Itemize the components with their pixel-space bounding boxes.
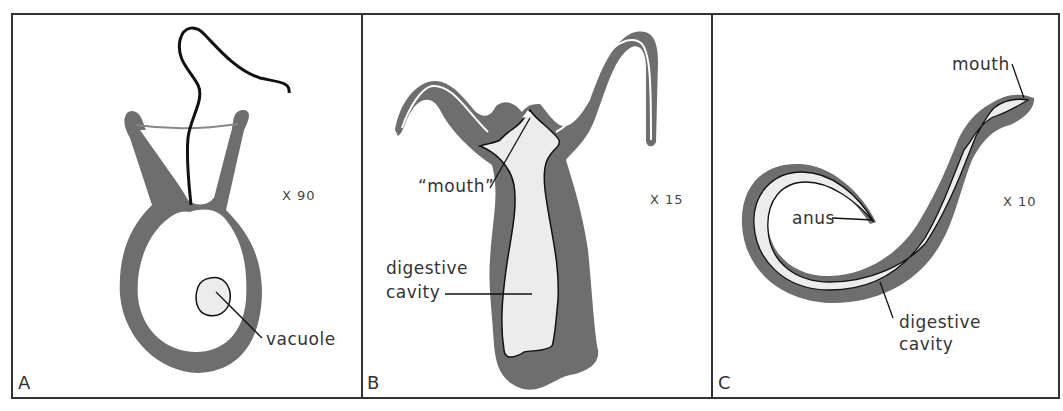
magnification-a: X 90 [282,188,316,203]
mouth-label-c: mouth [952,54,1010,74]
panel-letter-a: A [18,372,31,393]
magnification-b: X 15 [650,192,684,207]
digestive-cavity-label-c-line2: cavity [899,334,953,354]
panel-b: “mouth” digestive cavity X 15 B [367,32,684,393]
panel-letter-c: C [718,372,731,393]
vacuole-label: vacuole [266,329,336,349]
vacuole-shape [196,277,230,315]
anus-label: anus [792,208,835,228]
digestive-cavity-label-b-line2: cavity [386,282,440,302]
digestive-cavity-label-c-line1: digestive [899,312,981,332]
mouth-label-b: “mouth” [418,176,494,196]
hydra-drawing [395,32,658,390]
panel-letter-b: B [367,372,379,393]
digestive-cavity-label-b-line1: digestive [386,258,468,278]
digestive-systems-figure: X 90 vacuole A “mouth” digestive cavity … [0,0,1063,411]
panel-c: mouth anus digestive cavity X 10 C [718,54,1037,393]
roundworm-drawing [742,64,1034,318]
protist-cell-drawing [120,28,289,373]
panel-a: X 90 vacuole A [18,28,336,393]
mouth-leader-line-c [1012,64,1024,98]
magnification-c: X 10 [1003,194,1037,209]
